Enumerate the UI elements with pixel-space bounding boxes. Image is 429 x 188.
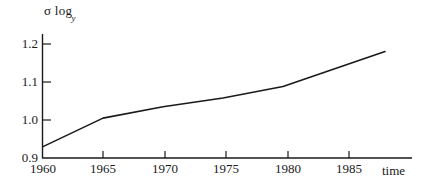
plot-canvas bbox=[0, 0, 429, 188]
x-tick-label-1970: 1970 bbox=[143, 162, 187, 176]
x-tick-label-1975: 1975 bbox=[204, 162, 248, 176]
x-tick-label-1985: 1985 bbox=[327, 162, 371, 176]
x-tick-label-1965: 1965 bbox=[81, 162, 125, 176]
y-tick-label-1.1: 1.1 bbox=[12, 75, 38, 88]
x-tick-label-1960: 1960 bbox=[21, 162, 65, 176]
x-tick-label-1980: 1980 bbox=[266, 162, 310, 176]
chart-figure: σ logy 1.2 1.1 1.0 0.9 1960 1965 1970 19… bbox=[0, 0, 429, 188]
y-tick-label-1.2: 1.2 bbox=[12, 37, 38, 50]
data-line-sigma-log-y bbox=[43, 52, 385, 147]
y-tick-label-1.0: 1.0 bbox=[12, 113, 38, 126]
x-axis-title: time bbox=[382, 163, 405, 179]
